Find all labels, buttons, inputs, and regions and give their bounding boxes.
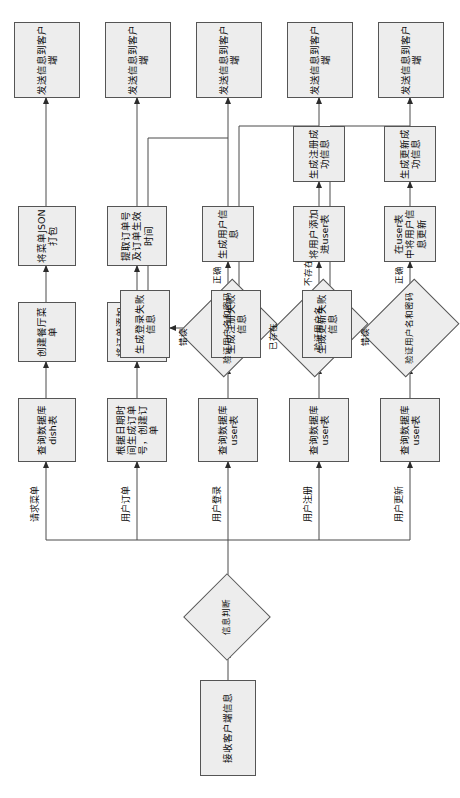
decision-label: 验证用户名和密码 xyxy=(378,290,442,366)
edge-label-update-correct: 正确 xyxy=(392,266,404,284)
node-add-user-to-user-table: 将用户添加进user表 xyxy=(293,206,345,262)
node-generate-user-info: 生成用户信息 xyxy=(202,206,254,262)
node-query-dish-table: 查询数据库dish表 xyxy=(18,398,76,462)
edge-label-login-correct: 正确 xyxy=(210,266,222,284)
edge-label-user-register: 用户注册 xyxy=(301,486,314,522)
edge-label-update-error: 错误 xyxy=(358,328,370,346)
decision-verify-username-password-update: 验证用户名和密码 xyxy=(378,290,442,366)
node-query-user-table-update: 查询数据库user表 xyxy=(380,398,440,462)
edge-label-request-menu: 请求菜单 xyxy=(28,486,41,522)
edge-label-user-login: 用户登录 xyxy=(210,486,223,522)
decision-label: 验证用户名 xyxy=(287,290,351,366)
node-generate-login-failure-info: 生成登录失败信息 xyxy=(120,290,170,358)
decision-verify-username-password-login: 验证用户名和密码 xyxy=(196,290,260,366)
node-create-restaurant-menu: 创建餐厅菜单 xyxy=(18,302,76,362)
edge-label-user-order: 用户订单 xyxy=(119,486,132,522)
end-node-send-info-to-client-update: 发送信息到客户端 xyxy=(378,22,444,98)
end-node-send-info-to-client-register: 发送信息到客户端 xyxy=(287,22,353,98)
start-node-receive-client-info: 接收客户端信息 xyxy=(200,680,256,776)
node-generate-register-success-info: 生成注册成功信息 xyxy=(293,126,345,182)
node-query-user-table-login: 查询数据库user表 xyxy=(198,398,258,462)
end-node-send-info-to-client-order: 发送信息到客户端 xyxy=(105,22,171,98)
edge-label-login-error: 错误 xyxy=(176,328,188,346)
decision-label: 信息判断 xyxy=(196,586,258,648)
node-generate-update-success-info: 生成更新成功信息 xyxy=(384,126,436,182)
node-update-user-info-in-table: 在user表中将用户信息更新 xyxy=(384,206,436,262)
node-create-order-number: 根据日期时间生成订单号，创建订单 xyxy=(107,398,167,462)
decision-verify-username-register: 验证用户名 xyxy=(287,290,351,366)
edge-label-user-update: 用户更新 xyxy=(392,486,405,522)
node-query-user-table-register: 查询数据库user表 xyxy=(289,398,349,462)
end-node-send-info-to-client-login: 发送信息到客户端 xyxy=(196,22,262,98)
decision-info-judgment: 信息判断 xyxy=(196,586,258,648)
edge-label-register-exists: 已存在 xyxy=(266,323,278,350)
node-extract-order-number-and-time: 提取订单号及订单生效时间 xyxy=(107,206,167,266)
node-package-menu-json: 将菜单JSON打包 xyxy=(18,206,76,266)
decision-label: 验证用户名和密码 xyxy=(196,290,260,366)
edge-label-register-not-exists: 不存在 xyxy=(301,259,313,286)
end-node-send-info-to-client-menu: 发送信息到客户端 xyxy=(14,22,80,98)
